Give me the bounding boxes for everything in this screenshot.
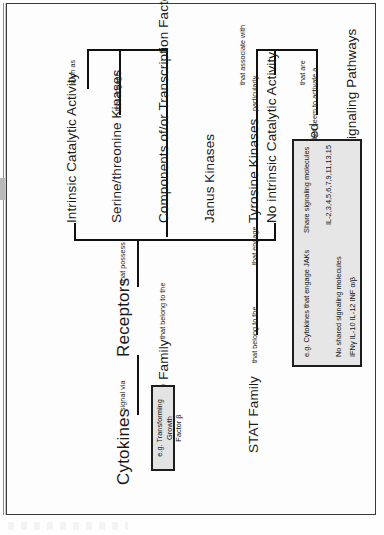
connector-cytokines-receptors [137, 355, 139, 415]
connector-tyrosine-janus [256, 115, 258, 235]
connector-nointrinsic-tyrosine [274, 49, 276, 75]
connector-nointrinsic-poorly-drop [274, 49, 318, 51]
legend-row2-header: No shared signaling molecules [334, 256, 343, 357]
connector-receptors-split [137, 239, 139, 287]
link-such-as: such as [68, 60, 77, 85]
link-particularly: particularly [250, 76, 259, 111]
legend-col2-values: IL-2,3,4,5,6,7,9,11,13,15 [324, 145, 333, 225]
link-that-belong-to-the-2: that belong to the [158, 283, 167, 339]
connector-intrinsic-serine-drop [87, 49, 121, 51]
node-janus-kinases: Janus Kinases [202, 134, 217, 223]
legend-box: e.g. Cytokines that engage JAKs Share si… [292, 139, 362, 367]
example-box-tgf-line2: Factor β [174, 387, 184, 469]
node-intrinsic-catalytic-activity: Intrinsic Catalytic Activity [64, 72, 79, 223]
connector-to-no-intrinsic [274, 223, 276, 241]
node-no-intrinsic-catalytic-activity: No intrinsic Catalytic Activity [264, 52, 279, 223]
node-components-transcription-factors: Components of/or Transcription Factors [156, 0, 171, 223]
connector-nointrinsic-tyrosine-rise [256, 49, 276, 51]
link-that-are: that are [298, 60, 307, 85]
example-box-tgf-line1: e.g. Transforming Growth [153, 387, 174, 469]
legend-row2-values: IFNγ IL-10 IL-12 INF α/β [348, 277, 357, 357]
legend-col1-header: e.g. Cytokines that engage JAKs [302, 250, 311, 357]
link-that-possess: that possess [118, 242, 127, 283]
connector-branch-split [74, 239, 276, 241]
link-but-seem-to-activate: but seem to activate a [310, 68, 319, 139]
link-that-engage-2: that engage [113, 72, 122, 111]
concept-map: Cytokines signal via Receptors that poss… [6, 3, 376, 515]
page-footer-artifact [8, 522, 128, 530]
node-receptors: Receptors [114, 278, 134, 357]
connector-to-intrinsic [74, 223, 76, 241]
node-tyrosine-kinases: Tyrosine Kinases [246, 119, 261, 223]
example-box-tgf: e.g. Transforming Growth Factor β [151, 385, 175, 471]
node-cytokines: Cytokines [114, 409, 134, 485]
node-stat-family: STAT Family [246, 376, 261, 453]
page-smudge-artifact [0, 178, 5, 200]
link-that-associate-with: that associate with [238, 25, 247, 85]
link-signal-via: signal via [118, 381, 127, 411]
link-that-belong-to-the-1: that belong to the [250, 307, 259, 363]
connector-intrinsic-serine [87, 49, 89, 89]
legend-col2-header: Share signaling molecules [302, 147, 311, 233]
scanned-page: Cytokines signal via Receptors that poss… [0, 0, 384, 535]
